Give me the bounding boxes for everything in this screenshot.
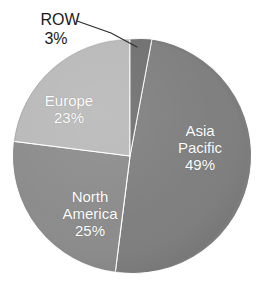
pie-shading-overlay bbox=[13, 39, 247, 273]
pie-chart-canvas bbox=[0, 0, 259, 293]
pie-chart: Europe 23% Asia Pacific 49% North Americ… bbox=[0, 0, 259, 293]
